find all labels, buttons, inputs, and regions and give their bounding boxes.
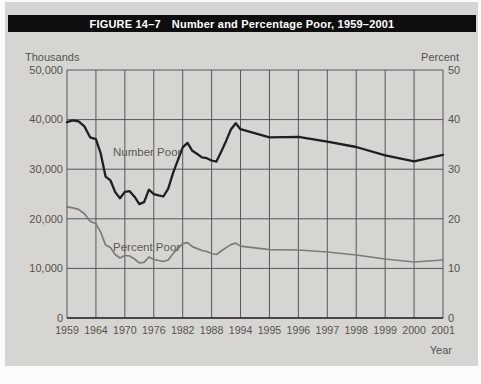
- number-poor-series-label: Number Poor: [113, 146, 182, 158]
- y-axis-tick-label: 30,000: [29, 163, 63, 175]
- x-axis-tick-label: 1976: [142, 324, 166, 336]
- right-axis-tick-label: 20: [448, 213, 460, 225]
- y-axis-tick-label: 0: [57, 312, 63, 324]
- x-axis-tick-label: 1994: [229, 324, 253, 336]
- percent-poor-series-label: Percent Poor: [113, 241, 180, 253]
- x-axis-tick-label: 1959: [55, 324, 79, 336]
- y-axis-tick-label: 40,000: [29, 113, 63, 125]
- tick-label-layer: 50,0005040,0004030,0003020,0002010,00010…: [29, 64, 460, 336]
- x-axis-tick-label: 1999: [373, 324, 397, 336]
- x-axis-tick-label: 1988: [200, 324, 224, 336]
- x-axis-tick-label: 1996: [287, 324, 311, 336]
- left-axis-unit-label: Thousands: [25, 51, 80, 63]
- x-axis-tick-label: 2001: [431, 324, 455, 336]
- poverty-line-chart: 50,0005040,0004030,0003020,0002010,00010…: [0, 0, 481, 384]
- page: { "figure": { "label": "FIGURE 14–7", "t…: [0, 0, 481, 384]
- y-axis-tick-label: 20,000: [29, 213, 63, 225]
- y-axis-tick-label: 50,000: [29, 64, 63, 76]
- x-axis-tick-label: 1964: [84, 324, 108, 336]
- x-axis-tick-label: 1970: [113, 324, 137, 336]
- percent-poor-line: [67, 207, 443, 263]
- x-axis-tick-label: 1998: [344, 324, 368, 336]
- x-axis-tick-label: 2000: [402, 324, 426, 336]
- x-axis-tick-label: 1982: [171, 324, 195, 336]
- right-axis-unit-label: Percent: [421, 51, 459, 63]
- right-axis-tick-label: 50: [448, 64, 460, 76]
- right-axis-tick-label: 30: [448, 163, 460, 175]
- x-axis-tick-label: 1997: [316, 324, 340, 336]
- x-axis-tick-label: 1995: [258, 324, 282, 336]
- right-axis-tick-label: 0: [448, 312, 454, 324]
- number-poor-line: [67, 120, 443, 204]
- x-axis-title: Year: [430, 344, 453, 356]
- right-axis-tick-label: 10: [448, 262, 460, 274]
- right-axis-tick-label: 40: [448, 113, 460, 125]
- y-axis-tick-label: 10,000: [29, 262, 63, 274]
